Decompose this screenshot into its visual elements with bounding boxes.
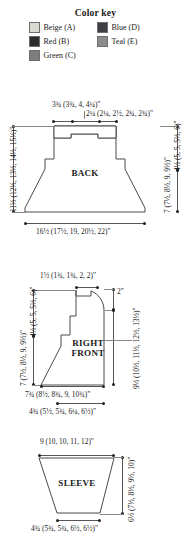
- right-front-left-upper-measurement: 4½ (5, 5, 5½, 6)": [30, 287, 38, 337]
- sleeve-top-measurement: 9 (10, 10, 11, 12)": [40, 438, 94, 446]
- sleeve-right-height-rule: [122, 457, 123, 514]
- right-front-shoulder-measurement: 1½ (1¾, 1¾, 2, 2)": [40, 272, 96, 280]
- right-front-inner-rule: [57, 403, 104, 404]
- sleeve-right-height-measurement: 6½ (7½, 8½, 9½, 10)": [128, 457, 136, 522]
- right-front-left-upper-tick: [33, 290, 76, 291]
- right-front-neck-rule: [113, 289, 114, 310]
- right-front-neck-top-tick: [104, 289, 114, 290]
- right-front-right-height-measurement: 9½ (10½, 11½, 12½, 13½)": [133, 307, 141, 389]
- schematic-page: Color key Beige (A) Blue (D) Red (B) Tea…: [0, 0, 191, 548]
- sleeve-right-top-tick: [114, 457, 123, 458]
- right-front-neck-measurement: 2": [117, 288, 124, 296]
- right-front-bottom-measurement: 7¾ (8½, 8¾, 9, 10¾)": [25, 391, 90, 399]
- back-right-lower-rule: [177, 170, 178, 212]
- sleeve-title: SLEEVE: [47, 478, 107, 488]
- sleeve-bottom-rule: [57, 520, 100, 521]
- right-front-inner-measurement: 4¾ (5½, 5¾, 6¼, 6½)": [29, 408, 96, 416]
- right-front-title-text: RIGHT FRONT: [72, 338, 105, 358]
- right-front-right-mid-tick: [104, 340, 132, 341]
- right-front-right-height-rule: [113, 310, 114, 385]
- right-front-bottom-rule: [41, 386, 104, 387]
- back-bottom-measurement: 16½ (17½, 19, 20½, 22)": [36, 228, 110, 236]
- right-front-left-lower-rule: [33, 336, 34, 385]
- right-front-title: RIGHT FRONT: [61, 338, 115, 359]
- back-bottom-measure-rule: [25, 223, 145, 224]
- sleeve-right-bottom-tick: [100, 514, 123, 515]
- right-front-left-lower-measurement: 7 (7½, 8½, 9, 9½)": [20, 330, 28, 386]
- sleeve-bottom-measurement: 4¾ (5¾, 5¾, 6½, 6½)": [31, 525, 98, 533]
- schematic-sleeve: 9 (10, 10, 11, 12)" SLEEVE 6½ (7½, 8½, 9…: [0, 0, 191, 120]
- back-left-bottom-tick: [13, 212, 26, 213]
